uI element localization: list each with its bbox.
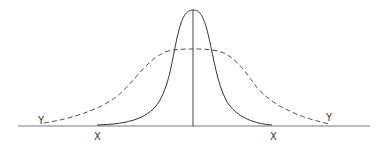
distribution-diagram <box>0 0 388 148</box>
label-x-left: X <box>94 132 101 142</box>
wide-bell-curve <box>44 49 330 124</box>
label-y-left: Y <box>38 116 44 126</box>
narrow-bell-curve <box>97 10 272 125</box>
label-y-right: Y <box>326 113 332 123</box>
label-x-right: X <box>270 132 277 142</box>
